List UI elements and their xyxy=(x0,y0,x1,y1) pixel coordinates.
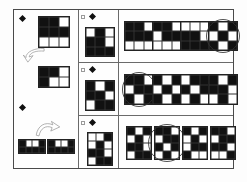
grid-cell xyxy=(209,75,219,85)
grid-cell xyxy=(86,91,96,101)
example-one-result-grid xyxy=(38,66,70,88)
grid-cell xyxy=(162,31,172,41)
grid-cell xyxy=(228,75,238,85)
grid-cell xyxy=(153,41,163,51)
grid-cell xyxy=(153,94,163,104)
grid-cell xyxy=(191,143,199,151)
grid-cell xyxy=(105,100,115,110)
grid-cell xyxy=(95,91,105,101)
grid-cell xyxy=(49,67,59,77)
grid-cell xyxy=(105,47,115,57)
grid-cell xyxy=(95,100,105,110)
grid-cell xyxy=(39,147,46,154)
grid-cell xyxy=(125,22,135,32)
question-2-option-C[interactable] xyxy=(181,75,209,104)
grid-cell xyxy=(49,17,59,27)
grid-cell xyxy=(127,143,135,151)
grid-cell xyxy=(183,135,191,143)
question-3-option-C[interactable] xyxy=(181,127,209,159)
grid-cell xyxy=(49,77,59,87)
question-1-option-C[interactable] xyxy=(181,22,209,51)
grid-cell xyxy=(218,85,228,95)
grid-cell xyxy=(135,127,143,135)
grid-cell xyxy=(96,133,104,141)
question-2-option-B[interactable] xyxy=(153,75,181,104)
curved-arrow-right-icon xyxy=(34,120,62,138)
question-3-header xyxy=(81,120,95,125)
grid-cell xyxy=(211,127,219,135)
grid-cell xyxy=(86,37,96,47)
question-1-option-D[interactable] xyxy=(209,22,237,51)
example-one-source-grid xyxy=(38,16,70,48)
grid-cell xyxy=(162,85,172,95)
grid-cell xyxy=(95,37,105,47)
divider-horizontal-row1 xyxy=(78,62,233,63)
diamond-marker-icon xyxy=(19,104,26,111)
grid-cell xyxy=(181,85,191,95)
grid-cell xyxy=(219,151,227,159)
grid-cell xyxy=(88,141,96,149)
question-3-option-D[interactable] xyxy=(209,127,237,159)
grid-cell xyxy=(191,151,199,159)
grid-cell xyxy=(105,81,115,91)
grid-cell xyxy=(153,31,163,41)
grid-cell xyxy=(104,141,112,149)
grid-cell xyxy=(181,31,191,41)
grid-cell xyxy=(218,94,228,104)
grid-cell xyxy=(88,157,96,165)
grid-cell xyxy=(95,47,105,57)
grid-cell xyxy=(59,27,69,37)
question-1-header xyxy=(81,14,95,19)
worksheet-page xyxy=(0,0,247,182)
question-2-header xyxy=(81,67,95,72)
example-two-result-grid xyxy=(47,139,75,154)
question-number-box xyxy=(81,68,85,72)
grid-cell xyxy=(181,41,191,51)
grid-cell xyxy=(199,127,207,135)
question-1-option-A[interactable] xyxy=(125,22,153,51)
question-1-prompt-grid xyxy=(85,27,116,58)
divider-vertical-right xyxy=(118,10,119,168)
grid-cell xyxy=(162,94,172,104)
grid-cell xyxy=(104,149,112,157)
question-2-option-C-grid xyxy=(180,74,211,105)
grid-cell xyxy=(59,37,69,47)
question-1-option-A-grid xyxy=(124,21,155,52)
grid-cell xyxy=(59,67,69,77)
grid-cell xyxy=(211,143,219,151)
grid-cell xyxy=(125,31,135,41)
grid-cell xyxy=(190,31,200,41)
grid-cell xyxy=(218,75,228,85)
grid-cell xyxy=(127,151,135,159)
grid-cell xyxy=(191,127,199,135)
grid-cell xyxy=(227,127,235,135)
grid-cell xyxy=(199,143,207,151)
grid-cell xyxy=(49,37,59,47)
grid-cell xyxy=(181,22,191,32)
grid-cell xyxy=(127,127,135,135)
question-3-option-B[interactable] xyxy=(153,127,181,159)
grid-cell xyxy=(135,151,143,159)
grid-cell xyxy=(162,41,172,51)
question-1-option-B[interactable] xyxy=(153,22,181,51)
grid-cell xyxy=(88,149,96,157)
question-2-option-A[interactable] xyxy=(125,75,153,104)
grid-cell xyxy=(219,127,227,135)
question-2-prompt xyxy=(85,80,116,111)
grid-cell xyxy=(211,151,219,159)
grid-cell xyxy=(39,17,49,27)
example-one-marker xyxy=(20,16,25,21)
diamond-marker-icon xyxy=(89,13,96,20)
question-number-box xyxy=(81,15,85,19)
diamond-marker-icon xyxy=(19,15,26,22)
question-2-option-B-grid xyxy=(152,74,183,105)
grid-cell xyxy=(183,143,191,151)
grid-cell xyxy=(105,28,115,38)
grid-cell xyxy=(199,135,207,143)
grid-cell xyxy=(183,151,191,159)
example-two-marker xyxy=(20,105,25,110)
question-3-option-D-grid xyxy=(210,126,236,160)
grid-cell xyxy=(39,77,49,87)
question-2-option-D[interactable] xyxy=(209,75,237,104)
grid-cell xyxy=(209,85,219,95)
